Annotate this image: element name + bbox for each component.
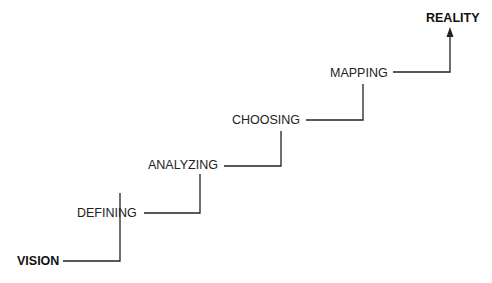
step-choosing: CHOOSING <box>232 114 300 127</box>
connector-mapping-reality <box>393 36 450 72</box>
connector-defining-analyzing <box>144 174 200 213</box>
connector-choosing-mapping <box>306 84 363 120</box>
connector-vision-defining <box>63 193 120 261</box>
step-vision: VISION <box>17 255 59 268</box>
step-reality: REALITY <box>426 12 479 25</box>
connector-analyzing-choosing <box>224 131 281 166</box>
step-mapping: MAPPING <box>330 67 388 80</box>
step-analyzing: ANALYZING <box>148 159 218 172</box>
arrow-head-icon <box>447 27 454 37</box>
staircase-connectors <box>0 0 492 283</box>
step-defining: DEFINING <box>77 207 137 220</box>
